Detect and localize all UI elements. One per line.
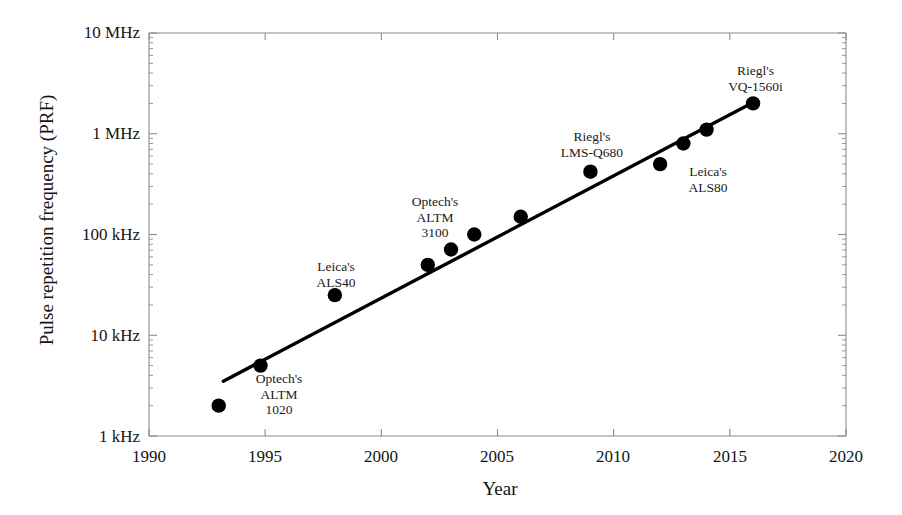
data-point-marker: Riegl's VQ-1560i — 2016, 2 MHz <box>746 96 760 110</box>
plot-canvas: 1993, 2 kHzOptech's ALTM 1020 — 1994.8, … <box>0 0 902 515</box>
data-point-marker: Leica's ALS80 — 2012, 500 kHz <box>653 157 667 171</box>
data-point-marker: 2002, 50 kHz <box>421 258 435 272</box>
data-point-marker: Optech's ALTM 3100 — 2003, 71 kHz <box>444 242 458 256</box>
trend-line-segment <box>223 101 755 381</box>
data-point-marker: 2004, 100 kHz <box>467 227 481 241</box>
data-markers: 1993, 2 kHzOptech's ALTM 1020 — 1994.8, … <box>212 96 761 413</box>
data-point-marker: Leica's ALS40 — 1998, 25 kHz <box>328 288 342 302</box>
trend-line <box>223 101 755 381</box>
data-point-marker: 2013, 800 kHz <box>676 136 690 150</box>
chart-figure: Pulse repetition frequency (PRF) Year 10… <box>0 0 902 515</box>
data-point-marker: 2014, 1.1 MHz <box>699 122 713 136</box>
data-point-marker: Optech's ALTM 1020 — 1994.8, 5 kHz <box>253 358 267 372</box>
data-point-marker: Riegl's LMS-Q680 — 2009, 420 kHz <box>583 165 597 179</box>
tick-marks <box>149 33 846 436</box>
data-point-marker: 2006, 150 kHz <box>514 210 528 224</box>
axis-frame <box>149 33 846 436</box>
data-point-marker: 1993, 2 kHz <box>212 398 226 412</box>
